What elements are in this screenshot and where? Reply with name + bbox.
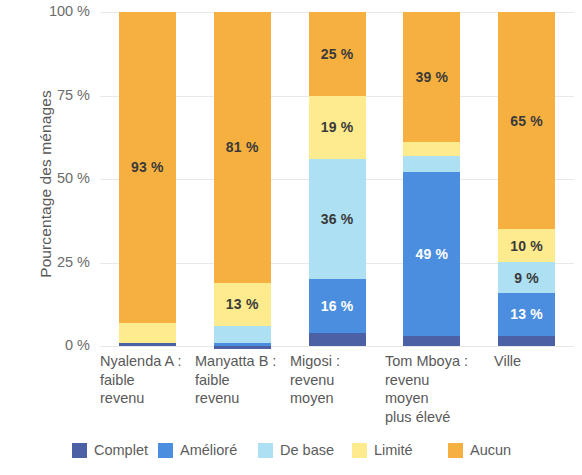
bar-segment[interactable]: 65 % bbox=[498, 12, 555, 229]
y-axis-tick-label: 100 % bbox=[20, 3, 90, 19]
x-axis-label: Tom Mboya :revenumoyenplus élevé bbox=[385, 352, 468, 426]
legend-label: Amélioré bbox=[180, 442, 237, 458]
legend-item[interactable]: Aucun bbox=[448, 440, 511, 460]
bar-segment[interactable] bbox=[403, 336, 460, 346]
y-axis-tick-label: 50 % bbox=[20, 170, 90, 186]
y-axis-tick-label: 75 % bbox=[20, 87, 90, 103]
x-axis-label-line: Nyalenda A : bbox=[100, 352, 181, 371]
bar-stack[interactable]: 81 %13 % bbox=[214, 12, 271, 346]
bar-segment[interactable] bbox=[119, 323, 176, 343]
x-axis-label-line: moyen bbox=[290, 389, 340, 408]
bar-segment-value-label: 10 % bbox=[510, 239, 543, 253]
x-axis-label-line: faible bbox=[195, 371, 276, 390]
bar-segment[interactable]: 10 % bbox=[498, 229, 555, 262]
legend-swatch bbox=[72, 443, 87, 458]
legend-item[interactable]: Limité bbox=[352, 440, 413, 460]
bar-segment[interactable]: 93 % bbox=[119, 12, 176, 323]
bar-segment[interactable]: 81 % bbox=[214, 12, 271, 283]
bar-segment[interactable]: 49 % bbox=[403, 172, 460, 336]
legend-label: De base bbox=[280, 442, 334, 458]
bar-segment-value-label: 9 % bbox=[514, 271, 539, 285]
bar-segment-value-label: 13 % bbox=[226, 297, 259, 311]
bar-segment[interactable]: 25 % bbox=[309, 12, 366, 96]
bar-segment-value-label: 65 % bbox=[510, 114, 543, 128]
legend-label: Aucun bbox=[470, 442, 511, 458]
x-axis-label-line: moyen bbox=[385, 389, 468, 408]
legend-swatch bbox=[448, 443, 463, 458]
bar-segment[interactable]: 13 % bbox=[214, 283, 271, 326]
gridline bbox=[100, 346, 574, 347]
stacked-bar-chart: Pourcentage des ménages 100 %75 %50 %25 … bbox=[0, 0, 582, 475]
bar-segment[interactable] bbox=[498, 336, 555, 346]
bar-segment-value-label: 36 % bbox=[321, 212, 354, 226]
bar-segment[interactable]: 13 % bbox=[498, 293, 555, 336]
bar-segment[interactable]: 9 % bbox=[498, 262, 555, 292]
bar-stack[interactable]: 93 % bbox=[119, 12, 176, 346]
plot-area: 100 %75 %50 %25 %0 % 93 %81 %13 %25 %19 … bbox=[100, 12, 574, 346]
legend-item[interactable]: Complet bbox=[72, 440, 148, 460]
legend-swatch bbox=[352, 443, 367, 458]
y-axis-tick-label: 0 % bbox=[20, 337, 90, 353]
bar-group: 93 % bbox=[119, 12, 176, 346]
bar-segment[interactable] bbox=[403, 156, 460, 173]
x-axis-label-line: revenu bbox=[385, 371, 468, 390]
bar-stack[interactable]: 39 %49 % bbox=[403, 12, 460, 346]
x-axis-label: Ville bbox=[494, 352, 521, 371]
x-axis-category-labels: Nyalenda A :faiblerevenuManyatta B :faib… bbox=[100, 352, 574, 420]
bar-group: 81 %13 % bbox=[214, 12, 271, 346]
x-axis-label-line: Manyatta B : bbox=[195, 352, 276, 371]
bar-segment-value-label: 13 % bbox=[510, 307, 543, 321]
bar-segment-value-label: 39 % bbox=[415, 70, 448, 84]
legend-swatch bbox=[258, 443, 273, 458]
bar-segment[interactable]: 36 % bbox=[309, 159, 366, 279]
bar-segment[interactable]: 16 % bbox=[309, 279, 366, 332]
x-axis-label: Migosi :revenumoyen bbox=[290, 352, 340, 408]
legend-label: Complet bbox=[94, 442, 148, 458]
x-axis-label-line: plus élevé bbox=[385, 408, 468, 427]
bar-segment[interactable] bbox=[309, 333, 366, 346]
bar-segment[interactable] bbox=[119, 343, 176, 346]
bar-group: 39 %49 % bbox=[403, 12, 460, 346]
x-axis-label-line: revenu bbox=[290, 371, 340, 390]
x-axis-label: Manyatta B :faiblerevenu bbox=[195, 352, 276, 408]
bar-segment-value-label: 19 % bbox=[321, 120, 354, 134]
bar-segment[interactable]: 39 % bbox=[403, 12, 460, 142]
bar-stack[interactable]: 25 %19 %36 %16 % bbox=[309, 12, 366, 346]
y-axis-tick-label: 25 % bbox=[20, 254, 90, 270]
bar-segment-value-label: 25 % bbox=[321, 47, 354, 61]
bar-segment-value-label: 49 % bbox=[415, 247, 448, 261]
bar-segment-value-label: 81 % bbox=[226, 140, 259, 154]
x-axis-label-line: Ville bbox=[494, 352, 521, 371]
legend-label: Limité bbox=[374, 442, 413, 458]
bar-segment-value-label: 93 % bbox=[131, 160, 164, 174]
bar-segment[interactable]: 19 % bbox=[309, 96, 366, 159]
x-axis-label-line: Tom Mboya : bbox=[385, 352, 468, 371]
chart-legend: CompletAmélioréDe baseLimitéAucun bbox=[0, 440, 582, 464]
x-axis-label-line: Migosi : bbox=[290, 352, 340, 371]
bar-group: 65 %10 %9 %13 % bbox=[498, 12, 555, 346]
legend-item[interactable]: Amélioré bbox=[158, 440, 237, 460]
x-axis-label: Nyalenda A :faiblerevenu bbox=[100, 352, 181, 408]
bar-segment[interactable] bbox=[214, 346, 271, 349]
x-axis-label-line: faible bbox=[100, 371, 181, 390]
bar-segment-value-label: 16 % bbox=[321, 299, 354, 313]
bar-group: 25 %19 %36 %16 % bbox=[309, 12, 366, 346]
bar-segment[interactable] bbox=[214, 326, 271, 343]
legend-swatch bbox=[158, 443, 173, 458]
x-axis-label-line: revenu bbox=[195, 389, 276, 408]
legend-item[interactable]: De base bbox=[258, 440, 334, 460]
bar-stack[interactable]: 65 %10 %9 %13 % bbox=[498, 12, 555, 346]
x-axis-label-line: revenu bbox=[100, 389, 181, 408]
bar-segment[interactable] bbox=[403, 142, 460, 155]
